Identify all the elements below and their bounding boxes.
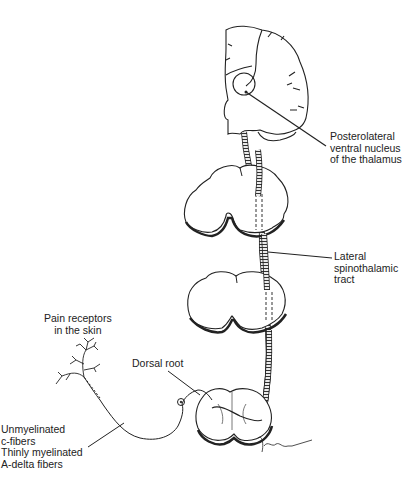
spinothalamic-diagram: [0, 0, 420, 479]
label-fiber-types: Unmyelinated c-fibers Thinly myelinated …: [1, 424, 83, 470]
artist-signature: [258, 437, 312, 452]
dorsal-root-leader: [168, 371, 200, 395]
label-pain-receptors: Pain receptors in the skin: [44, 313, 112, 336]
brain-section: [224, 26, 308, 141]
label-lateral-spinothalamic-tract: Lateral spinothalamic tract: [334, 251, 398, 286]
middle-cord-section: [188, 272, 286, 333]
peripheral-nerve: [84, 377, 212, 439]
free-nerve-endings: [56, 338, 100, 384]
label-thalamus: Posterolateral ventral nucleus of the th…: [330, 131, 402, 166]
label-dorsal-root: Dorsal root: [132, 358, 183, 370]
fibers-leader: [88, 423, 124, 447]
lower-cord-section: [196, 389, 272, 445]
tract-leader: [268, 252, 332, 258]
upper-cord-section: [184, 165, 287, 236]
